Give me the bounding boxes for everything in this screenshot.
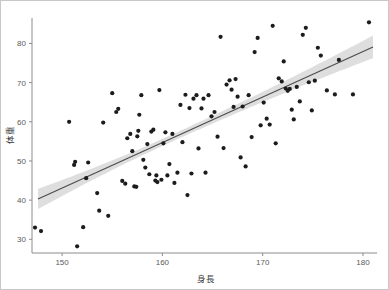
axes	[32, 18, 377, 253]
y-tick-label: 60	[17, 118, 26, 127]
data-point	[229, 88, 233, 92]
data-point	[116, 107, 120, 111]
data-point	[244, 164, 248, 168]
data-point	[351, 92, 355, 96]
data-point	[191, 97, 195, 101]
data-point	[256, 36, 260, 40]
data-point	[67, 120, 71, 124]
data-point	[203, 171, 207, 175]
data-point	[233, 77, 237, 81]
y-tick-label: 50	[17, 157, 26, 166]
data-point	[215, 135, 219, 139]
data-point	[125, 136, 129, 140]
data-point	[325, 88, 329, 92]
data-point	[224, 82, 228, 86]
data-point	[259, 123, 263, 127]
data-point	[307, 80, 311, 84]
data-point	[178, 103, 182, 107]
data-point	[137, 113, 141, 117]
data-point	[101, 120, 105, 124]
data-point	[106, 214, 110, 218]
data-point	[262, 101, 266, 105]
y-tick-label: 80	[17, 39, 26, 48]
data-point	[201, 97, 205, 101]
data-point	[75, 244, 79, 248]
data-point	[218, 35, 222, 39]
data-point	[298, 99, 302, 103]
data-point	[288, 87, 292, 91]
data-point	[163, 130, 167, 134]
data-point	[170, 132, 174, 136]
data-point	[268, 122, 272, 126]
data-point	[183, 93, 187, 97]
data-point	[333, 92, 337, 96]
data-point	[33, 225, 37, 229]
data-point	[277, 76, 281, 80]
data-point	[196, 146, 200, 150]
data-points	[33, 20, 371, 248]
data-point	[97, 209, 101, 213]
data-point	[154, 173, 158, 177]
x-tick-label: 150	[55, 258, 69, 267]
data-point	[292, 117, 296, 121]
data-point	[165, 173, 169, 177]
data-point	[159, 178, 163, 182]
data-point	[319, 54, 323, 58]
data-point	[134, 185, 138, 189]
data-point	[304, 26, 308, 30]
data-point	[161, 141, 165, 145]
data-point	[189, 171, 193, 175]
data-point	[95, 191, 99, 195]
data-point	[265, 117, 269, 121]
data-point	[143, 166, 147, 170]
data-point	[155, 180, 159, 184]
data-point	[212, 110, 216, 114]
y-tick-label: 40	[17, 196, 26, 205]
data-point	[271, 24, 275, 28]
data-point	[301, 33, 305, 37]
data-point	[274, 141, 278, 145]
data-point	[172, 181, 176, 185]
x-axis-title: 身長	[197, 274, 215, 284]
data-point	[206, 93, 210, 97]
data-point	[221, 146, 225, 150]
data-point	[241, 104, 245, 108]
x-axis-ticks: 150160170180	[55, 253, 370, 267]
scatter-plot-svg: 150160170180 304050607080 身長 体重	[1, 1, 389, 290]
regression-line	[38, 47, 373, 199]
data-point	[110, 91, 114, 95]
data-point	[175, 171, 179, 175]
chart-figure: 150160170180 304050607080 身長 体重	[0, 0, 389, 290]
data-point	[253, 50, 257, 54]
x-tick-label: 180	[356, 258, 370, 267]
data-point	[313, 79, 317, 83]
data-point	[282, 59, 286, 63]
data-point	[141, 158, 145, 162]
data-point	[84, 176, 88, 180]
data-point	[130, 149, 134, 153]
data-point	[167, 162, 171, 166]
data-point	[209, 114, 213, 118]
data-point	[236, 95, 240, 99]
data-point	[239, 155, 243, 159]
data-point	[187, 106, 191, 110]
data-point	[337, 58, 341, 62]
data-point	[81, 225, 85, 229]
data-point	[316, 46, 320, 50]
data-point	[139, 93, 143, 97]
data-point	[147, 172, 151, 176]
y-tick-label: 30	[17, 235, 26, 244]
data-point	[73, 160, 77, 164]
data-point	[295, 85, 299, 89]
data-point	[136, 129, 140, 133]
data-point	[128, 132, 132, 136]
data-point	[310, 108, 314, 112]
y-tick-label: 70	[17, 79, 26, 88]
data-point	[86, 160, 90, 164]
data-point	[157, 88, 161, 92]
y-axis-ticks: 304050607080	[17, 39, 32, 244]
data-point	[185, 193, 189, 197]
data-point	[250, 135, 254, 139]
data-point	[135, 134, 139, 138]
data-point	[367, 20, 371, 24]
